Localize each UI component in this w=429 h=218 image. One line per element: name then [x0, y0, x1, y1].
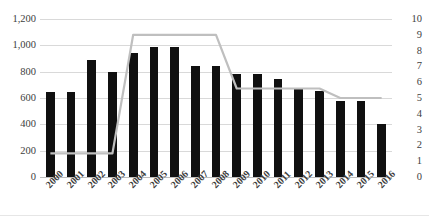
y-axis-right-tick: 7 — [398, 61, 422, 72]
plot-area — [40, 19, 392, 177]
chart-container: 02004006008001,0001,200 012345678910 200… — [0, 0, 429, 218]
y-axis-left-tick: 800 — [0, 67, 36, 78]
y-axis-right-tick: 10 — [398, 14, 422, 25]
x-axis-labels: 2000200120022003200420052006200720082009… — [40, 178, 392, 218]
line-series — [40, 19, 392, 177]
bottom-divider — [0, 215, 429, 216]
clipped-title-text — [0, 0, 429, 3]
y-axis-left-tick: 600 — [0, 93, 36, 104]
y-axis-right-tick: 4 — [398, 109, 422, 120]
y-axis-left-tick: 1,000 — [0, 40, 36, 51]
y-axis-right-tick: 6 — [398, 77, 422, 88]
y-axis-right-tick: 3 — [398, 125, 422, 136]
y-axis-right-tick: 5 — [398, 93, 422, 104]
y-axis-right-tick: 9 — [398, 30, 422, 41]
y-axis-left-tick: 400 — [0, 119, 36, 130]
y-axis-left-tick: 200 — [0, 146, 36, 157]
y-axis-left-tick: 0 — [0, 172, 36, 183]
y-axis-right-tick: 8 — [398, 46, 422, 57]
y-axis-right-tick: 2 — [398, 140, 422, 151]
line-series-path — [50, 35, 381, 154]
y-axis-right-tick: 1 — [398, 156, 422, 167]
y-axis-left-tick: 1,200 — [0, 14, 36, 25]
y-axis-right-tick: 0 — [398, 172, 422, 183]
